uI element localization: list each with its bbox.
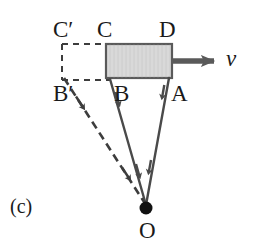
label-c: C [97, 18, 112, 41]
label-b: B [114, 82, 129, 105]
shaded-block [106, 44, 172, 78]
label-o: O [139, 219, 156, 242]
label-d: D [159, 18, 176, 41]
label-velocity: v [226, 47, 236, 70]
label-b-prime: B′ [53, 82, 73, 105]
panel-label: (c) [10, 196, 32, 216]
diagram-canvas [0, 0, 265, 252]
pivot-point-o [140, 202, 153, 215]
ray-OBprime [64, 78, 146, 205]
label-a: A [171, 82, 188, 105]
label-c-prime: C′ [53, 18, 73, 41]
ray-OA [146, 78, 169, 205]
dashed-block-outline [62, 44, 110, 80]
figure-panel-c: C′ C D B′ B A O v (c) [0, 0, 265, 252]
